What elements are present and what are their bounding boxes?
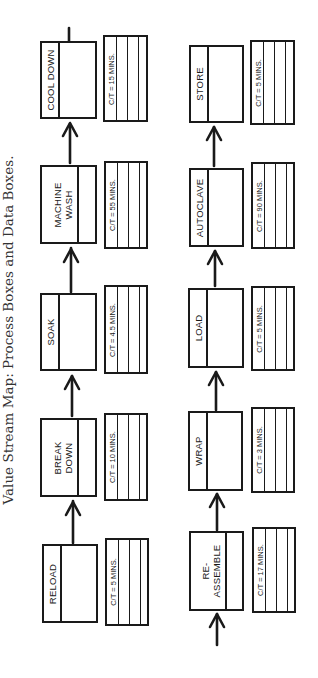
arrow-up-icon	[210, 494, 224, 530]
arrow-up-icon	[64, 248, 78, 292]
arrow-up-icon	[208, 251, 222, 286]
arrow-up-icon	[207, 127, 221, 166]
arrow-up-icon	[66, 501, 80, 543]
arrow-up-icon	[210, 614, 224, 645]
arrow-up-icon	[209, 372, 223, 410]
arrow-up-icon	[63, 123, 77, 163]
arrow-up-icon	[65, 376, 79, 416]
flow-arrows	[0, 0, 318, 678]
